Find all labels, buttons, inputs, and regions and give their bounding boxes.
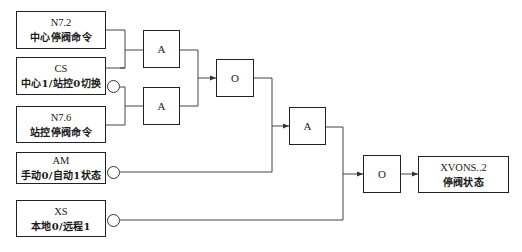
output-code: XVONS..2 (440, 160, 487, 175)
gate-label: A (158, 100, 166, 112)
and-gate-1: A (143, 30, 180, 68)
and-gate-3: A (289, 107, 326, 145)
gate-label: A (158, 43, 166, 55)
input-code: N7.6 (51, 110, 72, 125)
input-code: XS (54, 204, 67, 219)
input-desc: 中心1/站控0切换 (21, 76, 101, 91)
input-code: N7.2 (51, 15, 72, 30)
input-code: AM (53, 153, 70, 168)
gate-label: O (378, 168, 386, 180)
inverter-circle-icon (107, 214, 120, 227)
output-box: XVONS..2 停阀状态 (418, 156, 509, 193)
or-gate-1: O (216, 59, 254, 97)
inverter-circle-icon (107, 80, 120, 93)
and-gate-2: A (143, 87, 180, 125)
input-am-box: AM 手动0/自动1状态 (16, 152, 106, 184)
gate-label: O (231, 72, 239, 84)
input-desc: 手动0/自动1状态 (21, 168, 101, 183)
gate-label: A (304, 120, 312, 132)
input-code: CS (55, 61, 68, 76)
wire-n72-and1 (106, 30, 125, 68)
inverter-circle-icon (107, 166, 120, 179)
input-desc: 本地0/远程1 (31, 219, 91, 234)
input-cs-box: CS 中心1/站控0切换 (16, 57, 106, 95)
input-n76-box: N7.6 站控停阀命令 (16, 106, 106, 143)
input-desc: 站控停阀命令 (30, 125, 92, 140)
output-desc: 停阀状态 (443, 175, 484, 190)
input-desc: 中心停阀命令 (30, 30, 92, 45)
input-xs-box: XS 本地0/远程1 (16, 200, 106, 237)
input-n72-box: N7.2 中心停阀命令 (16, 11, 106, 49)
or-gate-2: O (363, 155, 401, 193)
